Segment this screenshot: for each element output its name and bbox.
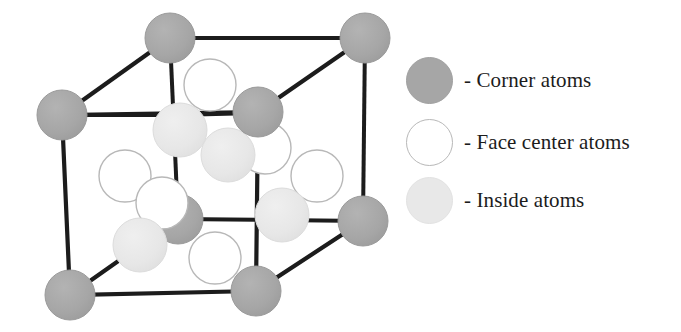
corner-atom-front-bottom-left (45, 270, 95, 320)
legend-label-corner-atoms: - Corner atoms (464, 70, 591, 91)
legend-item-inside-atoms: - Inside atoms (402, 170, 584, 230)
legend-label-inside-atoms: - Inside atoms (464, 190, 584, 211)
face-center-atom-swatch-icon (406, 119, 453, 166)
corner-atom-back-top-left (145, 13, 195, 63)
inside-atom-upper-right (201, 128, 255, 182)
corner-atom-back-top-right (340, 13, 390, 63)
legend-item-corner-atoms: - Corner atoms (402, 50, 591, 110)
legend-label-face-center-atoms: - Face center atoms (464, 132, 630, 153)
corner-atom-swatch-icon (406, 57, 453, 104)
edge-front-bottom (70, 291, 256, 295)
legend: - Corner atoms - Face center atoms - Ins… (402, 44, 681, 234)
unit-cell-illustration (0, 0, 400, 332)
face-center-atom-top (184, 59, 236, 111)
legend-item-face-center-atoms: - Face center atoms (402, 112, 630, 172)
corner-atom-front-top-right (233, 87, 283, 137)
crystal-structure-figure: - Corner atoms - Face center atoms - Ins… (0, 0, 681, 332)
face-center-atom-bottom (189, 232, 241, 284)
inside-atom-lower-left (113, 218, 167, 272)
corner-atom-back-bottom-right (338, 196, 388, 246)
corner-atom-front-top-left (37, 90, 87, 140)
inside-atom-swatch-icon (406, 177, 453, 224)
edge-back-right (363, 38, 365, 221)
edge-front-left (62, 115, 70, 295)
corner-atom-front-bottom-right (231, 266, 281, 316)
inside-atom-lower-right (255, 188, 309, 242)
inside-atom-upper-left (153, 103, 207, 157)
